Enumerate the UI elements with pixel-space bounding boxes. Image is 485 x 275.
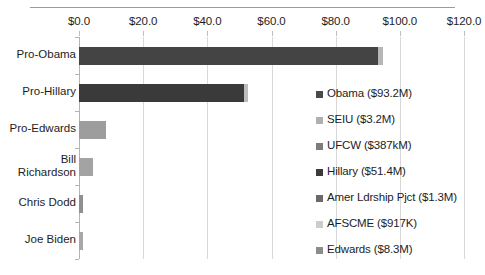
legend-label: Hillary ($51.4M) [327,164,406,178]
bar-segment[interactable] [244,84,248,102]
category-tick-mark [75,259,79,260]
category-axis-line [79,37,80,259]
gridline [207,37,208,259]
legend-swatch-icon [316,221,323,228]
legend-item[interactable]: SEIU ($3.2M) [316,112,485,138]
x-axis-tick-mark [79,31,80,36]
category-label: Chris Dodd [18,196,76,209]
top-divider-rule [30,7,455,8]
x-axis-tick-labels: $0.0$20.0$40.0$60.0$80.0$100.0$120.0 [0,15,485,31]
x-axis-tick-mark [464,31,465,36]
category-tick-mark [75,185,79,186]
legend-label: Obama ($93.2M) [327,86,412,100]
category-label: Pro-Hillary [22,85,76,98]
category-tick-mark [75,111,79,112]
legend-label: Amer Ldrship Pjct ($1.3M) [327,190,457,204]
legend-item[interactable]: Obama ($93.2M) [316,86,485,112]
bar-segment[interactable] [79,195,83,213]
legend-swatch-icon [316,91,323,98]
x-axis-tick-label: $40.0 [193,15,221,27]
bar-segment[interactable] [79,158,93,176]
legend-swatch-icon [316,117,323,124]
gridline [272,37,273,259]
x-axis-tick-label: $60.0 [257,15,285,27]
legend-swatch-icon [316,169,323,176]
legend-item[interactable]: UFCW ($387kM) [316,138,485,164]
category-label: Joe Biden [25,233,76,246]
legend-swatch-icon [316,247,323,254]
x-axis-tick-label: $120.0 [447,15,482,27]
legend-swatch-icon [316,143,323,150]
legend-item[interactable]: AFSCME ($917K) [316,216,485,242]
bar-segment[interactable] [79,121,106,139]
legend-item[interactable]: Hillary ($51.4M) [316,164,485,190]
legend-label: Edwards ($8.3M) [327,242,412,256]
x-axis-tick-mark [207,31,208,36]
x-axis-tick-label: $100.0 [383,15,418,27]
x-axis-tick-mark [400,31,401,36]
legend-label: AFSCME ($917K) [327,216,417,230]
bar-segment[interactable] [79,84,244,102]
x-axis-tick-label: $20.0 [129,15,157,27]
category-tick-mark [75,37,79,38]
legend-label: SEIU ($3.2M) [327,112,395,126]
category-tick-mark [75,74,79,75]
category-label: Pro-Obama [17,48,76,61]
legend-swatch-icon [316,195,323,202]
gridline [143,37,144,259]
legend-label: UFCW ($387kM) [327,138,411,152]
bar-segment[interactable] [378,47,383,65]
x-axis-tick-mark [272,31,273,36]
category-tick-mark [75,148,79,149]
x-axis-tick-mark [336,31,337,36]
category-tick-mark [75,222,79,223]
x-axis-tick-mark [143,31,144,36]
chart-legend: Obama ($93.2M)SEIU ($3.2M)UFCW ($387kM)H… [316,86,485,268]
legend-item[interactable]: Amer Ldrship Pjct ($1.3M) [316,190,485,216]
category-label: Pro-Edwards [10,122,76,135]
legend-item[interactable]: Edwards ($8.3M) [316,242,485,268]
bar-chart: $0.0$20.0$40.0$60.0$80.0$100.0$120.0 Oba… [0,0,485,275]
category-label: Bill Richardson [18,153,76,179]
x-axis-tick-label: $0.0 [68,15,90,27]
bar-segment[interactable] [79,47,378,65]
x-axis-tick-label: $80.0 [322,15,350,27]
bar-segment[interactable] [79,232,83,250]
